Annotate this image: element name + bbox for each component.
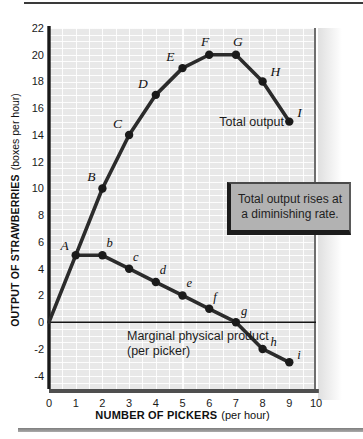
data-point-C [125,131,133,139]
y-tick-label: 0 [38,316,44,328]
x-tick-label: 9 [286,397,292,409]
y-axis-title: OUTPUT OF STRAWBERRIES(boxes per hour) [9,29,23,392]
marginal-curve-label-line2: (per picker) [127,344,269,359]
point-label-I: I [296,105,303,120]
point-label-E: E [165,49,175,64]
data-point-c [125,264,133,272]
y-tick-label: -4 [34,370,44,382]
point-label-D: D [137,76,148,91]
x-tick-label: 1 [73,397,79,409]
y-tick-label: 10 [32,182,44,194]
data-point-E [178,64,186,72]
point-label-i: i [297,348,301,362]
callout-line2: a diminishing rate. [231,207,349,222]
point-label-f: f [213,290,218,304]
data-point-G [232,51,240,59]
point-label-h: h [271,335,277,349]
point-label-e: e [187,276,193,290]
y-tick-label: 18 [32,75,44,87]
data-point-d [152,278,160,286]
x-axis-title-units: (per hour) [221,409,269,421]
y-axis-title-main: OUTPUT OF STRAWBERRIES [9,174,21,327]
point-label-H: H [270,64,282,79]
y-axis-title-units: (boxes per hour) [9,93,21,170]
point-label-B: B [87,169,95,184]
data-point-g [232,318,240,326]
x-tick-label: 10 [310,397,322,409]
point-label-C: C [113,116,123,131]
y-tick-label: 20 [32,49,44,61]
data-point-F [205,51,213,59]
point-label-c: c [133,250,139,264]
callout-box: Total output rises at a diminishing rate… [227,182,351,235]
y-tick-label: -2 [34,343,44,355]
point-label-b: b [106,236,112,250]
x-axis-title-main: NUMBER OF PICKERS [95,409,217,421]
figure-page: 2220181614121086420-2-4012345678910ABCDE… [0,0,363,439]
total-output-curve-label: Total output [199,115,284,129]
y-tick-label: 14 [32,129,44,141]
data-point-i [285,358,293,366]
data-point-D [152,91,160,99]
x-tick-label: 0 [46,397,52,409]
data-point-e [178,291,186,299]
x-tick-label: 8 [260,397,266,409]
data-point-f [205,305,213,313]
marginal-curve-label-line1: Marginal physical product [127,329,269,344]
point-label-F: F [200,34,210,49]
y-tick-label: 12 [32,156,44,168]
point-label-G: G [233,34,243,49]
data-point-B [98,184,106,192]
data-point-I [285,117,293,125]
y-tick-label: 22 [32,22,44,34]
y-tick-label: 4 [38,263,44,275]
marginal-curve-label: Marginal physical product (per picker) [127,329,269,359]
point-label-g: g [241,304,247,318]
data-point-b [98,251,106,259]
callout-line1: Total output rises at [231,192,349,207]
data-point-A [72,251,80,259]
x-tick-label: 5 [179,397,185,409]
point-label-A: A [59,238,69,253]
bottom-rule [18,428,363,432]
y-tick-label: 16 [32,102,44,114]
y-tick-label: 6 [38,236,44,248]
data-point-H [258,77,266,85]
point-label-d: d [160,263,167,277]
y-tick-label: 2 [38,289,44,301]
y-tick-label: 8 [38,209,44,221]
x-tick-label: 4 [153,397,159,409]
x-axis-title: NUMBER OF PICKERS(per hour) [49,409,316,421]
x-tick-label: 6 [206,397,212,409]
y-axis-line [47,26,50,389]
x-tick-label: 2 [99,397,105,409]
x-tick-label: 7 [233,397,239,409]
x-tick-label: 3 [126,397,132,409]
